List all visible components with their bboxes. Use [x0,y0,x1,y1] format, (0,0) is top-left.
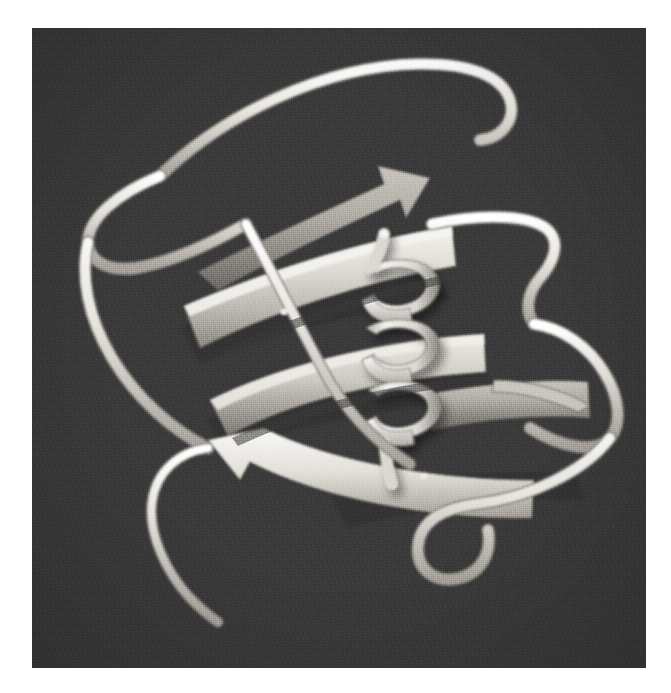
protein-ribbon-diagram [32,28,646,668]
molecule-image-panel [32,28,646,668]
panel-background [32,28,646,668]
figure-root: Grayscale ribbon (cartoon) rendering of … [0,0,671,693]
